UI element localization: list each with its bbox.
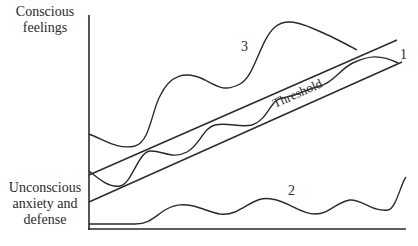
curve-2: [89, 177, 406, 224]
diagram-canvas: Threshold 3 1 2: [0, 0, 418, 246]
threshold-label: Threshold: [270, 75, 325, 110]
curve-1-label: 1: [400, 47, 407, 62]
curve-2-label: 2: [288, 183, 295, 198]
threshold-lower-line: [89, 62, 402, 202]
curve-3-label: 3: [241, 39, 248, 54]
curve-1: [89, 57, 398, 186]
threshold-diagram: Conscious feelings Unconscious anxiety a…: [0, 0, 418, 246]
threshold-upper-line: [89, 40, 397, 175]
